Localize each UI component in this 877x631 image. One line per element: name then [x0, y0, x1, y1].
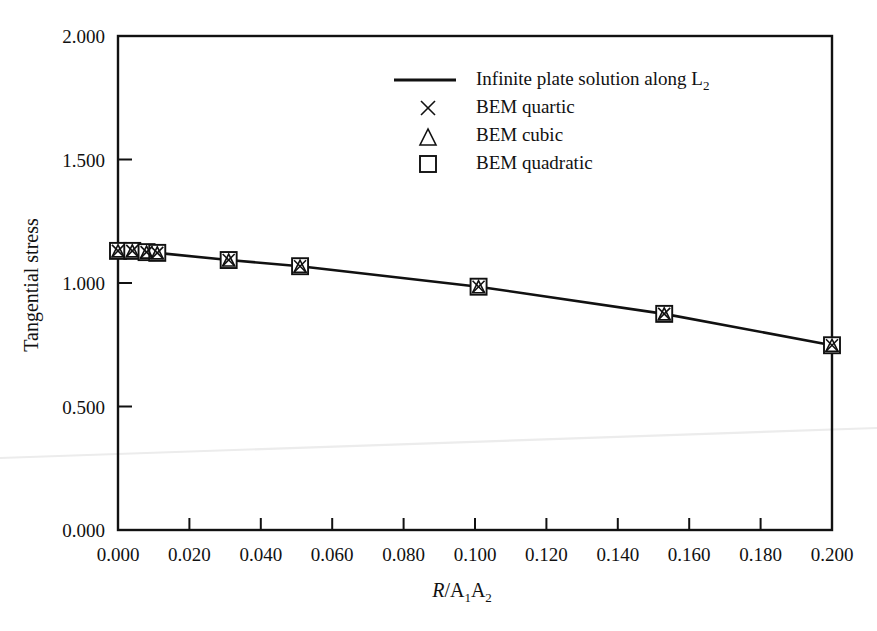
- x-tick-label: 0.200: [811, 544, 854, 565]
- x-tick-label: 0.040: [239, 544, 282, 565]
- x-tick-label: 0.000: [97, 544, 140, 565]
- y-axis-tick-labels: 0.0000.5001.0001.5002.000: [62, 26, 105, 541]
- chart-legend: Infinite plate solution along L2BEM quar…: [394, 68, 709, 173]
- y-tick-label: 1.500: [62, 150, 105, 171]
- scan-artifact: [0, 428, 877, 458]
- legend-item-line: Infinite plate solution along L2: [394, 68, 709, 93]
- y-tick-label: 0.000: [62, 520, 105, 541]
- legend-label: BEM quartic: [476, 96, 575, 117]
- x-tick-label: 0.060: [311, 544, 354, 565]
- marker-triangle: [420, 129, 436, 145]
- y-axis-title: Tangential stress: [20, 218, 43, 352]
- x-tick-label: 0.160: [668, 544, 711, 565]
- legend-item-square: BEM quadratic: [420, 152, 593, 173]
- tangential-stress-chart: 0.0000.0200.0400.0600.0800.1000.1200.140…: [0, 0, 877, 631]
- legend-label: BEM cubic: [476, 124, 563, 145]
- legend-item-triangle: BEM cubic: [420, 124, 563, 145]
- legend-label: Infinite plate solution along L2: [476, 68, 709, 93]
- x-axis-tick-labels: 0.0000.0200.0400.0600.0800.1000.1200.140…: [97, 544, 854, 565]
- legend-label: BEM quadratic: [476, 152, 593, 173]
- x-tick-label: 0.140: [596, 544, 639, 565]
- x-tick-label: 0.100: [454, 544, 497, 565]
- x-axis-title: R/A1A2: [431, 579, 492, 605]
- x-axis-ticks: [189, 518, 760, 530]
- legend-item-cross: BEM quartic: [421, 96, 575, 117]
- y-tick-label: 2.000: [62, 26, 105, 47]
- y-tick-label: 0.500: [62, 397, 105, 418]
- x-tick-label: 0.180: [739, 544, 782, 565]
- x-tick-label: 0.020: [168, 544, 211, 565]
- y-tick-label: 1.000: [62, 273, 105, 294]
- figure-container: 0.0000.0200.0400.0600.0800.1000.1200.140…: [0, 0, 877, 631]
- legend-label-subscript: 2: [703, 78, 710, 93]
- x-tick-label: 0.120: [525, 544, 568, 565]
- marker-square: [420, 156, 436, 172]
- x-tick-label: 0.080: [382, 544, 425, 565]
- y-axis-ticks: [118, 160, 132, 407]
